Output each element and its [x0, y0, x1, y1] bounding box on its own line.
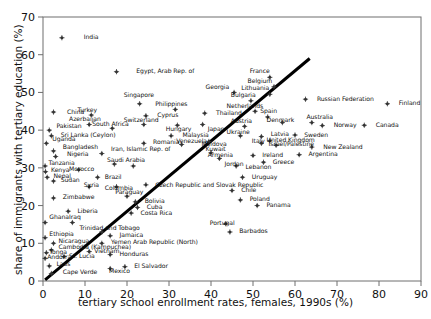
- data-point-label: Finland: [399, 100, 420, 106]
- data-point-marker: [47, 128, 52, 133]
- data-point-label: Barbados: [239, 228, 267, 234]
- data-point-label: Syria: [84, 182, 99, 188]
- data-point-label: Turkey: [78, 107, 98, 113]
- data-point-label: Laos: [57, 261, 71, 267]
- y-axis-title: share of immigrants with tertiary educat…: [12, 24, 24, 275]
- data-point-label: Venezuela: [176, 138, 207, 144]
- data-point-label: Pakistan: [57, 123, 82, 129]
- data-point-marker: [309, 120, 314, 125]
- data-point-label: Australia: [306, 114, 333, 120]
- data-point-marker: [238, 197, 243, 202]
- data-point-marker: [250, 153, 255, 158]
- data-point-label: Ukraine: [227, 129, 250, 135]
- data-point-marker: [114, 69, 119, 74]
- data-point-marker: [297, 152, 302, 157]
- data-point-label: St. Lucia: [69, 253, 95, 259]
- data-point-label: Chile: [241, 187, 256, 193]
- data-point-marker: [95, 175, 100, 180]
- data-point-label: Uganda: [52, 136, 75, 142]
- data-point-label: Russian Federation: [317, 96, 374, 102]
- data-point-label: Thailand: [216, 110, 242, 116]
- data-point-label: Sudan: [61, 177, 80, 183]
- data-point-label: France: [250, 68, 270, 74]
- x-axis-title: tertiary school enrollment rates, female…: [0, 296, 431, 308]
- data-point-label: Nigeria: [67, 151, 88, 157]
- data-point-marker: [202, 111, 207, 116]
- data-point-marker: [131, 163, 136, 168]
- data-point-label: Lebanon: [246, 164, 272, 170]
- data-point-label: Spain: [260, 108, 277, 114]
- data-point-label: Zimbabwe: [63, 194, 95, 200]
- data-point-marker: [51, 241, 56, 246]
- data-point-label: Cyprus: [157, 112, 178, 118]
- data-point-label: Argentina: [309, 151, 338, 157]
- data-point-label: Singapore: [124, 92, 154, 98]
- data-point-label: El Salvador: [134, 263, 168, 269]
- data-point-label: Honduras: [120, 251, 149, 257]
- data-point-label: Saudi Arabia: [107, 157, 145, 163]
- data-point-label: Iraq: [69, 214, 81, 220]
- data-point-label: South Africa: [92, 121, 128, 127]
- plot-frame: [43, 17, 421, 281]
- data-point-marker: [227, 229, 232, 234]
- data-point-label: Austria: [231, 118, 252, 124]
- data-point-label: Brazil: [105, 174, 122, 180]
- data-point-label: Cape Verde: [63, 269, 98, 275]
- data-point-marker: [385, 101, 390, 106]
- data-point-marker: [255, 203, 260, 208]
- data-point-marker: [143, 182, 148, 187]
- data-point-label: Egypt, Arab Rep. of: [136, 68, 194, 74]
- data-point-label: Paraguay: [115, 189, 143, 195]
- data-point-marker: [43, 169, 48, 174]
- data-point-label: Greece: [273, 159, 294, 165]
- data-point-marker: [44, 141, 49, 146]
- data-point-marker: [253, 109, 258, 114]
- data-point-label: Philippines: [155, 101, 187, 107]
- data-point-label: Andorra: [47, 254, 71, 260]
- data-point-marker: [51, 178, 56, 183]
- data-point-marker: [47, 263, 52, 268]
- data-point-marker: [137, 101, 142, 106]
- data-point-marker: [240, 175, 245, 180]
- data-point-label: Italy: [252, 138, 265, 144]
- data-point-label: Netherlands: [227, 103, 264, 109]
- data-point-marker: [51, 109, 56, 114]
- data-point-label: Vietnam: [94, 248, 119, 254]
- scatter-chart: IndiaEgypt, Arab Rep. ofSingaporeGeorgia…: [0, 0, 431, 319]
- data-point-marker: [45, 175, 50, 180]
- data-point-label: New Zealand: [323, 144, 363, 150]
- y-tick-label: 70: [9, 11, 35, 24]
- data-point-label: Canada: [376, 122, 399, 128]
- data-point-marker: [362, 123, 367, 128]
- data-point-label: Georgia: [206, 84, 230, 90]
- data-point-marker: [59, 35, 64, 40]
- data-point-marker: [87, 122, 92, 127]
- data-point-marker: [70, 220, 75, 225]
- data-point-label: Japan: [208, 126, 225, 132]
- data-point-label: India: [84, 34, 99, 40]
- data-point-marker: [200, 122, 205, 127]
- data-point-label: Morocco: [69, 166, 94, 172]
- data-point-marker: [229, 188, 234, 193]
- data-point-label: Jordan: [225, 161, 244, 167]
- data-point-label: Ghana: [49, 214, 69, 220]
- data-point-label: Lithuania: [241, 85, 269, 91]
- data-point-marker: [51, 195, 56, 200]
- data-point-marker: [303, 97, 308, 102]
- data-point-label: Norway: [334, 122, 357, 128]
- data-point-label: Bulgaria: [231, 92, 256, 98]
- data-point-label: Denmark: [267, 117, 295, 123]
- data-point-label: Costa Rica: [141, 210, 173, 216]
- data-point-label: Trinidad and Tobago: [80, 225, 140, 231]
- data-point-label: Mexico: [109, 268, 130, 274]
- data-point-label: United Kingdom: [267, 137, 315, 143]
- data-point-marker: [320, 123, 325, 128]
- data-point-label: Belgium: [248, 78, 273, 84]
- data-point-marker: [51, 148, 56, 153]
- data-point-label: Panama: [267, 202, 291, 208]
- data-point-label: Iran, Islamic Rep. of: [111, 146, 170, 152]
- data-point-label: Armenia: [208, 152, 233, 158]
- data-point-label: Portugal: [210, 220, 235, 226]
- data-point-label: Uruguay: [252, 174, 278, 180]
- y-tick-label: 0: [9, 275, 35, 288]
